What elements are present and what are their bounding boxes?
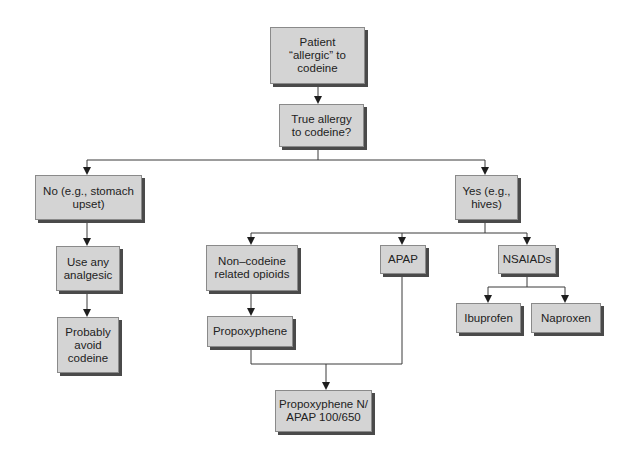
- arrow-icon: [523, 237, 531, 245]
- node-use-any-analgesic: Use any analgesic: [56, 246, 120, 291]
- arrow-icon: [398, 237, 406, 245]
- node-probably-avoid-codeine: Probably avoid codeine: [57, 317, 119, 373]
- node-nsaiads: NSAIADs: [498, 245, 556, 274]
- node-apap: APAP: [380, 245, 426, 274]
- arrow-icon: [247, 308, 255, 316]
- node-naproxen: Naproxen: [531, 303, 601, 333]
- node-ibuprofen: Ibuprofen: [456, 303, 521, 333]
- node-yes-branch: Yes (e.g., hives): [455, 175, 518, 220]
- arrow-icon: [484, 295, 492, 303]
- arrow-icon: [83, 238, 91, 246]
- flowchart-canvas: Patient “allergic” to codeine True aller…: [0, 0, 632, 458]
- node-true-allergy-question: True allergy to codeine?: [279, 104, 364, 147]
- arrow-icon: [83, 309, 91, 317]
- arrow-icon: [561, 295, 569, 303]
- node-propoxyphene: Propoxyphene: [207, 316, 293, 347]
- arrow-icon: [247, 237, 255, 245]
- arrow-icon: [83, 167, 91, 175]
- arrow-icon: [322, 382, 330, 390]
- node-patient-allergic: Patient “allergic” to codeine: [270, 27, 365, 84]
- node-no-branch: No (e.g., stomach upset): [35, 175, 142, 220]
- node-non-codeine-opioids: Non–codeine related opioids: [206, 245, 298, 291]
- arrow-icon: [314, 96, 322, 104]
- node-propoxyphene-apap-combo: Propoxyphene N/ APAP 100/650: [275, 390, 372, 432]
- arrow-icon: [481, 167, 489, 175]
